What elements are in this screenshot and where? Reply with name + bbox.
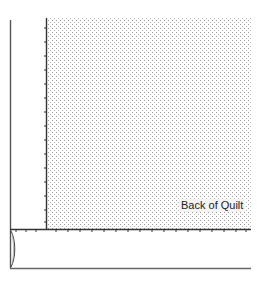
inner-left-stitch-ticks [44, 28, 46, 222]
quilt-back-area [47, 18, 251, 229]
quilt-diagram [0, 0, 266, 282]
bottom-stitch-ticks [16, 230, 246, 232]
back-of-quilt-label: Back of Quilt [179, 199, 245, 212]
